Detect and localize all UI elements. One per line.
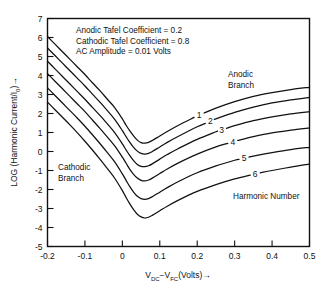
cathodic-branch-annotation: Cathodic Branch — [58, 163, 90, 183]
y-tick-label: 6 — [38, 33, 43, 43]
chart-canvas: -0.2-0.100.10.20.30.40.5 -5-4-3-2-101234… — [0, 0, 329, 297]
svg-text:VDC−VFC(Volts)→: VDC−VFC(Volts)→ — [145, 270, 211, 282]
y-tick-label: 2 — [38, 109, 43, 119]
x-axis-tick-labels: -0.2-0.100.10.20.30.40.5 — [40, 251, 316, 261]
harmonic-number-annotation: Harmonic Number — [233, 192, 300, 201]
svg-text:LOG (Harmonic Current/I0)→: LOG (Harmonic Current/I0)→ — [9, 77, 21, 187]
anodic-branch-annotation: Anodic Branch — [228, 70, 254, 90]
x-tick-label: 0.2 — [191, 251, 203, 261]
curve-label-2: 2 — [208, 116, 213, 126]
x-axis-ticks — [48, 241, 310, 247]
y-axis-tick-labels: -5-4-3-2-101234567 — [35, 14, 43, 252]
harmonic-curve-2 — [48, 48, 206, 154]
x-axis-title: VDC−VFC(Volts)→ — [145, 270, 211, 282]
anodic-branch-line2: Branch — [228, 81, 254, 90]
y-title-main: LOG (Harmonic Current/I — [9, 92, 19, 187]
parameter-annotation-block: Anodic Tafel Coefficient = 0.2 Cathodic … — [76, 26, 190, 56]
curve-label-1: 1 — [197, 110, 202, 120]
x-title-arrow: → — [202, 270, 211, 280]
anodic-tafel-annotation: Anodic Tafel Coefficient = 0.2 — [76, 26, 182, 35]
y-tick-label: 4 — [38, 71, 43, 81]
harmonic-curve-2-tail — [214, 97, 309, 119]
y-tick-label: 7 — [38, 14, 43, 24]
curve-label-4: 4 — [230, 137, 235, 147]
cathodic-branch-line2: Branch — [58, 174, 84, 183]
y-tick-label: 5 — [38, 52, 43, 62]
harmonic-curve-4-tail — [238, 128, 310, 141]
cathodic-tafel-annotation: Cathodic Tafel Coefficient = 0.8 — [76, 37, 190, 46]
harmonic-current-chart-figure: -0.2-0.100.10.20.30.40.5 -5-4-3-2-101234… — [0, 0, 329, 297]
y-tick-label: -3 — [35, 204, 43, 214]
cathodic-branch-line1: Cathodic — [58, 163, 90, 172]
y-tick-label: -2 — [35, 185, 43, 195]
ac-amplitude-annotation: AC Amplitude = 0.01 Volts — [76, 47, 171, 56]
harmonic-curve-3-tail — [227, 112, 310, 129]
y-tick-label: 0 — [38, 147, 43, 157]
curve-label-6: 6 — [253, 169, 258, 179]
x-title-units: (Volts) — [178, 270, 202, 280]
y-tick-label: -5 — [35, 242, 43, 252]
x-tick-label: 0.5 — [304, 251, 316, 261]
x-tick-label: 0.4 — [266, 251, 278, 261]
y-tick-label: 1 — [38, 128, 43, 138]
harmonic-curve-1-tail — [204, 87, 309, 113]
anodic-branch-line1: Anodic — [228, 70, 253, 79]
harmonic-curve-5-tail — [249, 147, 310, 157]
x-tick-label: -0.2 — [40, 251, 55, 261]
y-tick-label: -4 — [35, 223, 43, 233]
curve-label-5: 5 — [242, 153, 247, 163]
x-tick-label: -0.1 — [78, 251, 93, 261]
harmonic-curve-6-tail — [260, 164, 309, 173]
y-axis-title: LOG (Harmonic Current/I0)→ — [9, 77, 21, 187]
y-title-arrow: → — [9, 77, 19, 86]
harmonic-curve-labels: 123456 — [197, 110, 258, 179]
harmonic-curves — [48, 37, 310, 218]
x-tick-label: 0.3 — [229, 251, 241, 261]
x-tick-label: 0.1 — [154, 251, 166, 261]
curve-label-3: 3 — [219, 125, 224, 135]
x-tick-label: 0 — [120, 251, 125, 261]
y-tick-label: -1 — [35, 166, 43, 176]
y-tick-label: 3 — [38, 90, 43, 100]
